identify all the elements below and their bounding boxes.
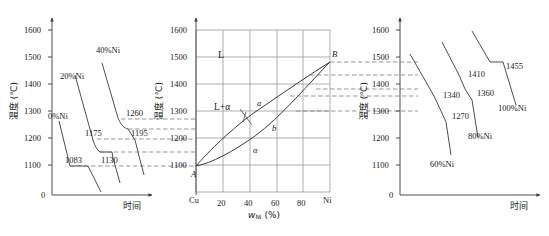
point-label-a: A — [191, 170, 196, 179]
left-ytick-0: 0 — [41, 191, 45, 200]
curve-label-80-ni: 80%Ni — [468, 132, 492, 141]
region-label-alpha: α — [253, 146, 257, 155]
arrest-1270: 1270 — [452, 112, 469, 121]
arrest-1130: 1130 — [101, 156, 118, 165]
left-ytick-1200: 1200 — [24, 134, 41, 143]
curve-label-0-ni: 0%Ni — [48, 112, 68, 121]
right-ytick-0: 0 — [389, 191, 393, 200]
right-ytick-1200: 1200 — [372, 134, 389, 143]
middle-xtick-cu: Cu — [189, 196, 199, 205]
arrest-1360: 1360 — [477, 89, 494, 98]
liquidus-curve — [196, 62, 330, 166]
left-ytick-1100: 1100 — [24, 161, 41, 170]
right-ytick-1100: 1100 — [372, 161, 389, 170]
middle-ytick-1100: 1100 — [170, 161, 187, 170]
left-ytick-1600: 1600 — [24, 26, 41, 35]
arrest-1083: 1083 — [65, 156, 82, 165]
solidus-label-b: b — [272, 124, 276, 133]
right-cooling-curves — [410, 31, 516, 155]
middle-xtick-80: 80 — [297, 199, 306, 208]
percent-unit: (%) — [262, 210, 280, 220]
arrest-1195: 1195 — [131, 129, 148, 138]
right-y-axis-label: 温度 (℃) — [360, 82, 369, 120]
right-ytick-1600: 1600 — [372, 26, 389, 35]
middle-y-axis-label: 温度 (℃) — [155, 82, 164, 120]
right-ytick-1500: 1500 — [372, 53, 389, 62]
arrest-1410: 1410 — [468, 70, 485, 79]
middle-xtick-ni: Ni — [323, 196, 332, 205]
liquidus-label-a: a — [257, 99, 261, 108]
curve-label-60-ni: 60%Ni — [430, 160, 454, 169]
right-x-axis-label: 时间 — [510, 202, 528, 211]
middle-ytick-1300: 1300 — [170, 107, 187, 116]
arrest-1175: 1175 — [85, 129, 102, 138]
curve-label-100-ni: 100%Ni — [498, 104, 526, 113]
cu-ni-phase-diagram-figure: 温度 (℃) 1600 1500 1400 1300 1200 1100 0 时… — [0, 0, 549, 236]
middle-xtick-60: 60 — [271, 199, 280, 208]
left-y-axis-label: 温度 (℃) — [10, 82, 19, 120]
left-ytick-1300: 1300 — [24, 107, 41, 116]
left-ytick-1500: 1500 — [24, 53, 41, 62]
right-tie-lines — [290, 62, 418, 111]
curve-label-40-ni: 40%Ni — [96, 46, 120, 55]
point-label-b: B — [332, 50, 337, 59]
curve-60-ni — [410, 54, 451, 155]
middle-ytick-1600: 1600 — [170, 26, 187, 35]
region-label-liquid: L — [218, 50, 224, 60]
arrest-1340: 1340 — [443, 91, 460, 100]
left-x-axis-label: 时间 — [123, 202, 141, 211]
middle-ytick-1200: 1200 — [170, 134, 187, 143]
left-ytick-1400: 1400 — [24, 80, 41, 89]
middle-ytick-1400: 1400 — [170, 80, 187, 89]
right-ytick-1400: 1400 — [372, 80, 389, 89]
middle-ytick-1500: 1500 — [170, 53, 187, 62]
solidus-curve — [196, 62, 330, 166]
region-label-l-plus-alpha: L+α — [214, 103, 230, 113]
phase-boundaries — [196, 62, 330, 166]
arrest-1260: 1260 — [126, 109, 143, 118]
middle-x-axis-label: wNi (%) — [248, 211, 280, 220]
curve-label-20-ni: 20%Ni — [60, 72, 84, 81]
right-ytick-1300: 1300 — [372, 107, 389, 116]
middle-xtick-40: 40 — [244, 199, 253, 208]
arrest-1455: 1455 — [506, 62, 523, 71]
middle-xtick-20: 20 — [217, 199, 226, 208]
